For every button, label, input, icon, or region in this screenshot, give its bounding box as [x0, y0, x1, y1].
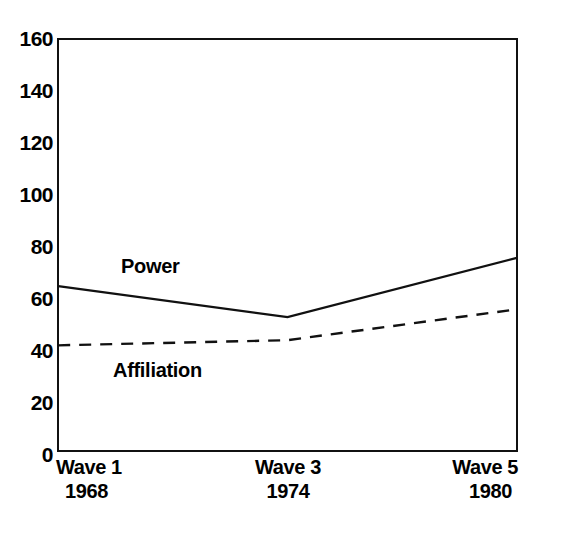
y-tick-label: 40 — [1, 340, 53, 361]
y-tick-label: 60 — [1, 288, 53, 309]
y-tick-label: 80 — [1, 236, 53, 257]
x-tick-wave: Wave 1 — [56, 455, 122, 479]
x-tick-label-wave-5: Wave 5 1980 — [452, 455, 518, 504]
plot-area-frame — [57, 38, 518, 452]
x-tick-year: 1974 — [255, 479, 321, 503]
line-chart: 160 140 120 100 80 60 40 20 0 Power Affi… — [0, 0, 568, 536]
y-tick-label: 120 — [1, 132, 53, 153]
y-tick-label: 100 — [1, 184, 53, 205]
x-tick-year: 1980 — [452, 479, 512, 503]
series-annotation-affiliation: Affiliation — [113, 360, 202, 380]
x-tick-wave: Wave 5 — [452, 455, 518, 479]
y-tick-label: 20 — [1, 392, 53, 413]
y-tick-label: 140 — [1, 80, 53, 101]
y-tick-label: 160 — [1, 28, 53, 49]
x-tick-wave: Wave 3 — [255, 455, 321, 479]
x-axis: Wave 1 1968 Wave 3 1974 Wave 5 1980 — [0, 455, 568, 525]
x-tick-label-wave-3: Wave 3 1974 — [255, 455, 321, 504]
series-annotation-power: Power — [121, 256, 180, 276]
x-tick-label-wave-1: Wave 1 1968 — [56, 455, 122, 504]
x-tick-year: 1968 — [65, 479, 122, 503]
